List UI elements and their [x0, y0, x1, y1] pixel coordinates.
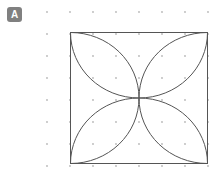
arc-top [71, 33, 208, 98]
arc-bottom [71, 98, 208, 163]
geometry-figure [0, 0, 217, 174]
four-petal-rosette [71, 33, 208, 164]
arc-left [71, 33, 140, 164]
arc-right [139, 33, 208, 164]
figure-canvas: A [0, 0, 217, 174]
